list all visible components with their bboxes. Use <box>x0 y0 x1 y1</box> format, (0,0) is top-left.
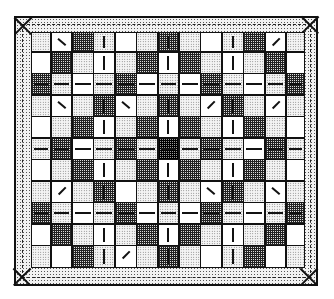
needle-icon <box>121 100 130 108</box>
quilt-patch-white <box>159 225 179 245</box>
quilt-patch-dot <box>201 53 221 73</box>
seam-line-icon <box>103 99 105 113</box>
quilt-patch-dot <box>266 117 286 137</box>
quilt-patch-check <box>116 74 136 94</box>
quilt-patch-dot <box>116 160 136 180</box>
quilt-patch-check <box>201 74 221 94</box>
quilt-patch-check <box>73 33 93 51</box>
quilt-patch-dot <box>32 96 50 116</box>
quilt-patch-dot <box>137 139 157 159</box>
seam-line-icon <box>268 83 284 85</box>
quilt-patch-white <box>73 203 93 223</box>
quilt-patch-dot <box>52 74 72 94</box>
quilt-patch-dot <box>180 182 200 202</box>
quilt-patch-white <box>287 53 304 73</box>
seam-line-icon <box>232 120 234 134</box>
quilt-patch-dot <box>159 74 179 94</box>
quilt-patch-check <box>244 117 264 137</box>
quilt-patch-dot <box>244 53 264 73</box>
quilt-patch-white <box>287 160 304 180</box>
seam-line-icon <box>34 83 48 85</box>
quilt-patch-dot <box>223 33 243 51</box>
quilt-patch-dot <box>137 33 157 51</box>
quilt-patch-dot <box>201 160 221 180</box>
seam-line-icon <box>34 212 48 214</box>
quilt-patch-check <box>137 117 157 137</box>
quilt-patch-white <box>244 139 264 159</box>
seam-line-icon <box>268 212 284 214</box>
quilt-patch-dot <box>52 203 72 223</box>
seam-line-icon <box>75 148 91 150</box>
corner-x-mark-top-left <box>14 17 32 35</box>
seam-line-icon <box>167 163 169 177</box>
seam-line-icon <box>96 212 112 214</box>
quilt-patch-white <box>159 160 179 180</box>
quilt-patch-dot <box>287 182 304 202</box>
quilt-patch-dot <box>137 246 157 267</box>
quilt-patch-dot <box>73 182 93 202</box>
quilt-patch-dot <box>94 139 114 159</box>
seam-line-icon <box>54 83 70 85</box>
quilt-patch-check <box>32 203 50 223</box>
quilt-patch-check <box>52 53 72 73</box>
seam-line-icon <box>232 99 234 113</box>
quilt-patch-check <box>244 246 264 267</box>
quilt-patch-white <box>116 33 136 51</box>
quilt-patch-check <box>201 139 221 159</box>
quilt-patch-white <box>266 96 286 116</box>
quilt-patch-dot <box>180 246 200 267</box>
quilt-patch-white <box>180 203 200 223</box>
quilt-patch-check <box>73 160 93 180</box>
quilt-patch-check <box>159 33 179 51</box>
quilt-patch-dot <box>32 182 50 202</box>
quilt-patch-check <box>180 117 200 137</box>
quilt-patch-dot <box>180 96 200 116</box>
quilt-patch-dot <box>32 246 50 267</box>
seam-line-icon <box>96 83 112 85</box>
seam-line-icon <box>225 148 241 150</box>
seam-line-icon <box>203 148 219 150</box>
quilt-patch-white <box>137 74 157 94</box>
quilt-patch-check <box>137 225 157 245</box>
quilt-patch-dot <box>244 182 264 202</box>
seam-line-icon <box>232 36 234 48</box>
quilt-patch-dot <box>137 182 157 202</box>
quilt-patch-dot <box>287 139 304 159</box>
seam-line-icon <box>167 249 169 264</box>
quilt-patch-white <box>266 33 286 51</box>
seam-line-icon <box>232 228 234 242</box>
seam-line-icon <box>103 185 105 199</box>
needle-icon <box>57 38 66 46</box>
seam-line-icon <box>182 83 198 85</box>
quilt-patch-white <box>223 53 243 73</box>
quilt-patch-dot <box>223 74 243 94</box>
quilt-patch-dot <box>137 96 157 116</box>
seam-line-icon <box>75 83 91 85</box>
quilt-patch-white <box>94 53 114 73</box>
quilt-patch-check <box>73 246 93 267</box>
needle-icon <box>122 251 130 259</box>
quilt-patch-check <box>287 74 304 94</box>
quilt-patch-dot <box>266 160 286 180</box>
seam-line-icon <box>161 83 177 85</box>
seam-line-icon <box>246 83 262 85</box>
quilt-patch-check <box>159 246 179 267</box>
quilt-patch-dot <box>73 53 93 73</box>
quilt-patch-white <box>52 246 72 267</box>
quilt-patch-dot <box>223 203 243 223</box>
seam-line-icon <box>167 99 169 113</box>
quilt-patch-check <box>223 182 243 202</box>
seam-line-icon <box>225 83 241 85</box>
quilt-patch-white <box>201 33 221 51</box>
quilt-patch-white <box>94 160 114 180</box>
seam-line-icon <box>167 120 169 134</box>
seam-line-icon <box>54 148 70 150</box>
quilt-patch-white <box>223 117 243 137</box>
quilt-patch-dot <box>159 203 179 223</box>
quilt-patch-white <box>116 246 136 267</box>
quilt-patch-white <box>223 160 243 180</box>
quilt-patch-dot <box>201 117 221 137</box>
quilt-patch-white <box>137 203 157 223</box>
seam-line-icon <box>139 148 155 150</box>
quilt-patch-white <box>201 96 221 116</box>
